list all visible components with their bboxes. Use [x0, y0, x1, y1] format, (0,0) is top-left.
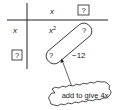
row-header-unknown: ? [15, 51, 19, 60]
callout-arrow-line [62, 60, 72, 87]
cell-constant: −12 [72, 51, 86, 60]
col-header-x: x [49, 7, 55, 16]
cell-bottom-left-unknown: ? [49, 51, 53, 60]
callout-text: add to give 4x [62, 91, 109, 100]
col-header-unknown: ? [81, 6, 85, 15]
cell-top-right-unknown: ? [82, 26, 86, 35]
cell-x-squared: x2 [48, 25, 56, 36]
row-header-x: x [12, 26, 18, 35]
factoring-grid-diagram: x ? x ? x2 ? ? −12 add to give 4x [0, 0, 126, 110]
